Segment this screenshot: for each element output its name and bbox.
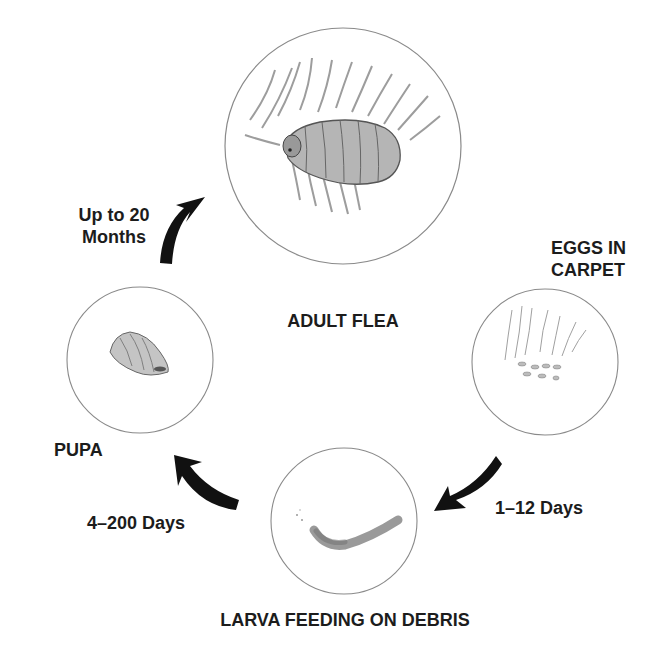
stage-label-eggs-line2: CARPET xyxy=(551,259,626,281)
arrow-larva-to-pupa-icon xyxy=(174,455,239,510)
duration-larva-to-pupa: 4–200 Days xyxy=(87,512,185,534)
stage-label-larva: LARVA FEEDING ON DEBRIS xyxy=(200,609,490,631)
stage-label-eggs: EGGS IN CARPET xyxy=(551,237,626,281)
stage-label-adult-flea: ADULT FLEA xyxy=(257,310,429,332)
adult-flea-circle xyxy=(225,28,461,264)
arrow-eggs-to-larva-icon xyxy=(434,456,502,511)
duration-pupa-to-adult: Up to 20 Months xyxy=(64,204,164,248)
duration-pupa-to-adult-line1: Up to 20 xyxy=(64,204,164,226)
flea-life-cycle-diagram: ADULT FLEA EGGS IN CARPET LARVA FEEDING … xyxy=(0,0,669,646)
stage-label-eggs-line1: EGGS IN xyxy=(551,237,626,259)
pupa-circle xyxy=(67,287,213,433)
duration-eggs-to-larva: 1–12 Days xyxy=(495,497,583,519)
arrow-pupa-to-adult-icon xyxy=(160,197,205,264)
duration-pupa-to-adult-line2: Months xyxy=(64,226,164,248)
stage-label-pupa: PUPA xyxy=(54,439,103,461)
eggs-circle xyxy=(472,289,618,435)
larva-circle xyxy=(271,448,417,594)
